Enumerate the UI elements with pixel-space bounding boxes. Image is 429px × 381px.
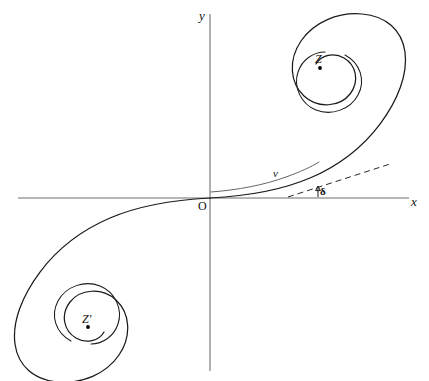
origin-label: O <box>198 200 207 212</box>
focus-label-Z-prime: Z' <box>82 313 91 325</box>
diagram-canvas <box>0 0 429 381</box>
inner-coil-upper <box>297 52 362 112</box>
velocity-curve <box>211 162 319 192</box>
spiral-branch-lower <box>14 198 210 381</box>
y-axis-label: y <box>199 9 205 22</box>
velocity-label: v <box>273 168 278 179</box>
spiral-branch-upper <box>210 14 406 198</box>
focus-dot-Z <box>318 66 322 70</box>
x-axis-label: x <box>411 195 417 208</box>
angle-delta-label: δ <box>320 186 326 197</box>
axes-group <box>18 14 409 371</box>
focus-label-Z: Z <box>315 53 322 65</box>
figure-root: y x O Z Z' v δ <box>0 0 429 381</box>
